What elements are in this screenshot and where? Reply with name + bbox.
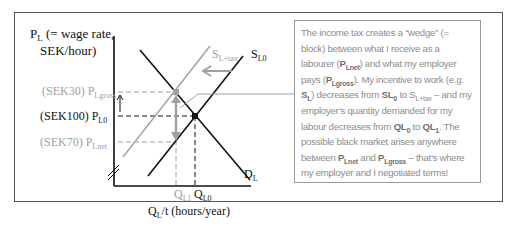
y-axis-label: PL (= wage rate, — [30, 26, 114, 43]
supply-curve-tax — [123, 46, 210, 157]
quantity-label-l1: QL1 — [174, 187, 192, 203]
x-axis-label: QL/t (hours/year) — [148, 204, 230, 220]
note-connector-line — [180, 94, 294, 108]
tax-equilibrium-point — [173, 89, 179, 95]
explanation-note: The income tax creates a “wedge” (= bloc… — [294, 20, 481, 183]
price-label-l0: (SEK100) PL0 — [40, 109, 107, 125]
equilibrium-point — [192, 113, 198, 119]
y-axis-label-line2: SEK/hour) — [40, 43, 96, 58]
supply-tax-label: SL+tax — [212, 47, 238, 63]
quantity-label-l0: QL0 — [194, 187, 212, 203]
supply-l0-label: SL0 — [251, 47, 267, 63]
price-label-gross: (SEK30) PLgross — [42, 84, 116, 100]
demand-label: DL — [244, 167, 258, 183]
price-label-net: (SEK70) PLnet — [40, 135, 108, 151]
